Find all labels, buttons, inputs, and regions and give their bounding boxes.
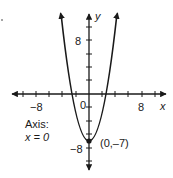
- parabola-graph: −8 8 0 x y 8 −8 (0,–7) Axis: x = 0: [0, 0, 173, 178]
- x-tick-label-8: 8: [138, 101, 144, 113]
- x-axis-label: x: [159, 100, 166, 112]
- axis-of-symmetry-equation: x = 0: [24, 131, 50, 143]
- stray-dot: [1, 19, 3, 21]
- y-tick-label-8: 8: [75, 35, 81, 47]
- vertex-point: [86, 138, 91, 143]
- vertex-label: (0,–7): [100, 137, 129, 149]
- axis-of-symmetry-title: Axis:: [25, 118, 49, 130]
- x-tick-label-neg8: −8: [30, 101, 43, 113]
- y-axis-label: y: [94, 10, 102, 22]
- y-tick-label-neg8: −8: [70, 143, 83, 155]
- origin-label: 0: [80, 99, 86, 111]
- parabola-right-arrow: [117, 13, 118, 18]
- parabola-left-arrow: [61, 13, 62, 18]
